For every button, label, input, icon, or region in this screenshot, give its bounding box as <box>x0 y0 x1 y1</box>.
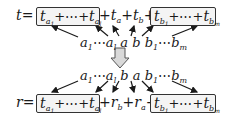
bottom-right-box: tb1+⋯+tbm <box>150 94 216 113</box>
top-seq-y: b <box>132 35 140 50</box>
bottom-right-box-content: tb1+⋯+tbm <box>154 95 220 112</box>
bottom-middle-terms: +rb+ra+ <box>99 94 158 110</box>
top-right-box: tb1+⋯+tbm <box>150 7 216 26</box>
top-left-box: ta1+⋯+tal <box>36 7 100 26</box>
bottom-lhs: r= <box>16 94 34 110</box>
top-sequence: a1⋯al a b b1⋯bm <box>80 35 187 50</box>
top-seq-x: a <box>120 35 128 50</box>
arrow-a1-to-ta1-bottom <box>52 81 78 92</box>
top-left-box-content: ta1+⋯+tal <box>40 8 101 25</box>
bottom-sequence: a1⋯al b a b1⋯bm <box>80 68 187 83</box>
bottom-seq-x: b <box>120 68 128 83</box>
bottom-left-box-content: ta1+⋯+tal <box>40 95 101 112</box>
bottom-left-box: ta1+⋯+tal <box>36 94 100 113</box>
bottom-seq-y: a <box>133 68 141 83</box>
top-middle-terms: +ta+tb+ <box>99 7 155 23</box>
top-right-box-content: tb1+⋯+tbm <box>154 8 220 25</box>
arrow-a1-to-ta1 <box>52 26 78 37</box>
top-lhs: t= <box>16 7 33 23</box>
